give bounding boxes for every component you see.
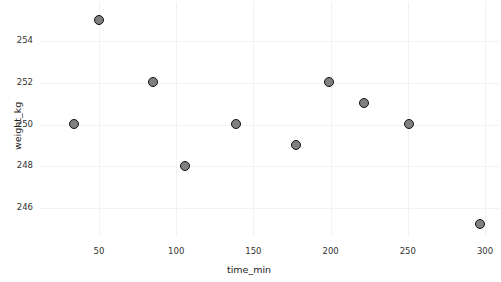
gridline-vertical [176, 2, 177, 236]
gridline-vertical [253, 2, 254, 236]
y-tick-label: 248 [3, 160, 33, 170]
x-tick-label: 50 [79, 246, 119, 256]
scatter-point [180, 161, 190, 171]
y-tick-label: 254 [3, 35, 33, 45]
scatter-point [475, 219, 485, 229]
gridline-vertical [331, 2, 332, 236]
y-tick-label: 252 [3, 77, 33, 87]
x-tick-label: 100 [156, 246, 196, 256]
x-axis-title: time_min [227, 264, 271, 275]
scatter-point [94, 15, 104, 25]
gridline-vertical [99, 2, 100, 236]
x-tick-label: 250 [388, 246, 428, 256]
gridline-horizontal [40, 83, 499, 84]
scatter-point [404, 119, 414, 129]
gridline-horizontal [40, 41, 499, 42]
gridline-horizontal [40, 208, 499, 209]
scatter-point [291, 140, 301, 150]
scatter-chart-figure: 246248250252254 50100150200250300 weight… [0, 0, 501, 282]
scatter-point [231, 119, 241, 129]
y-tick-label: 246 [3, 202, 33, 212]
y-axis-title: weight_kg [12, 102, 23, 150]
scatter-point [148, 77, 158, 87]
gridline-vertical [485, 2, 486, 236]
scatter-point [324, 77, 334, 87]
gridline-horizontal [40, 166, 499, 167]
x-tick-label: 200 [311, 246, 351, 256]
plot-area: 246248250252254 50100150200250300 [0, 0, 501, 282]
scatter-point [69, 119, 79, 129]
scatter-point [359, 98, 369, 108]
x-tick-label: 150 [233, 246, 273, 256]
gridline-horizontal [40, 125, 499, 126]
x-tick-label: 300 [465, 246, 501, 256]
